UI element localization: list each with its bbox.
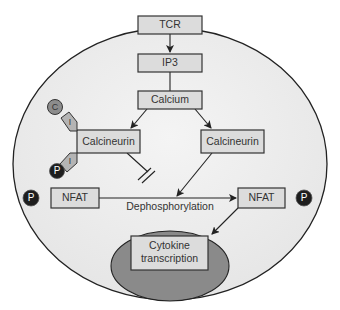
tcr-label: TCR: [159, 18, 181, 30]
calcium-label: Calcium: [151, 93, 189, 105]
phosphate-inhibitor-label: P: [54, 165, 61, 176]
calcineurin-right-label: Calcineurin: [206, 135, 259, 147]
ip3-node: IP3: [138, 54, 202, 72]
nfat-right-label: NFAT: [248, 191, 275, 203]
calcineurin-left-node: Calcineurin: [77, 130, 140, 153]
nfat-left-label: NFAT: [62, 191, 89, 203]
phosphate-right-label: P: [301, 192, 308, 203]
tcr-node: TCR: [138, 16, 202, 34]
nfat-left-node: NFAT: [51, 188, 99, 208]
calcineurin-right-node: Calcineurin: [201, 130, 264, 153]
ip3-label: IP3: [162, 56, 178, 68]
calcium-node: Calcium: [138, 91, 202, 109]
immunophilin-bottom-label: I: [69, 156, 71, 166]
phosphate-left-label: P: [28, 192, 35, 203]
calcineurin-left-label: Calcineurin: [82, 135, 135, 147]
cytokine-transcription-node: Cytokine transcription: [131, 236, 208, 270]
cyclophilin-label: C: [52, 102, 59, 112]
calcineurin-nfat-pathway-diagram: TCR IP3 Calcium Calcineurin Calcineurin …: [0, 0, 340, 310]
cytokine-label-line2: transcription: [141, 252, 198, 264]
nfat-right-node: NFAT: [238, 188, 285, 208]
cytokine-label-line1: Cytokine: [149, 239, 190, 251]
dephosphorylation-label: Dephosphorylation: [126, 200, 214, 212]
immunophilin-top-label: I: [69, 117, 71, 127]
